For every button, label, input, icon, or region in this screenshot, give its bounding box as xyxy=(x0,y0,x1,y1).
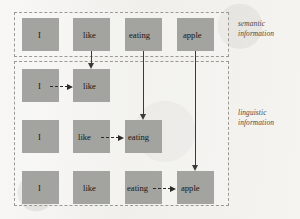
node-label-sem-like: like xyxy=(83,30,96,40)
node-label-r2-i: I xyxy=(38,132,41,142)
node-label-sem-eating: eating xyxy=(129,30,150,40)
arrow-r3-eating-to-apple xyxy=(153,188,171,189)
diagram-canvas: semantic information linguistic informat… xyxy=(0,0,300,219)
node-label-r3-apple: apple xyxy=(181,183,200,193)
node-label-sem-apple: apple xyxy=(183,30,202,40)
node-label-r3-eating: eating xyxy=(127,183,148,193)
panel-label-semantic-line1: semantic xyxy=(238,19,274,29)
node-label-sem-i: I xyxy=(38,30,41,40)
node-label-r3-i: I xyxy=(38,183,41,193)
panel-label-linguistic-line1: linguistic xyxy=(238,108,274,118)
node-label-r2-like: like xyxy=(78,132,91,142)
panel-label-semantic-line2: information xyxy=(238,29,274,39)
node-label-r2-eating: eating xyxy=(128,132,149,142)
arrow-r1-i-to-like xyxy=(50,86,68,87)
arrow-semantic-to-row2-eating xyxy=(143,51,144,115)
panel-label-linguistic: linguistic information xyxy=(238,108,274,127)
arrow-semantic-to-row3-apple xyxy=(195,51,196,166)
arrow-semantic-to-row1-like xyxy=(91,51,92,64)
node-label-r3-like: like xyxy=(83,183,96,193)
arrow-r2-like-to-eating xyxy=(101,137,119,138)
panel-label-semantic: semantic information xyxy=(238,19,274,38)
node-label-r1-i: I xyxy=(38,81,41,91)
node-label-r1-like: like xyxy=(83,81,96,91)
panel-label-linguistic-line2: information xyxy=(238,118,274,128)
